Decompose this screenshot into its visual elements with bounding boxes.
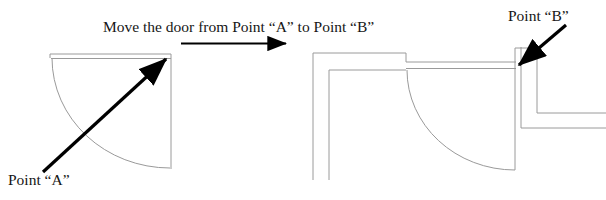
point-b-label: Point “B” (508, 8, 569, 24)
right-l-wall-inner (537, 46, 606, 113)
right-door-swing-arc (407, 70, 515, 170)
left-door-swing-arc (52, 58, 170, 168)
point-b-arrow (519, 25, 566, 65)
right-l-wall-outer (521, 120, 606, 128)
right-panel-group (313, 25, 606, 180)
figure-title: Move the door from Point “A” to Point “B… (103, 19, 374, 35)
door-relocation-figure: Move the door from Point “A” to Point “B… (0, 0, 606, 200)
left-panel-group (43, 54, 171, 172)
right-inner-wall (329, 70, 406, 180)
point-a-label: Point “A” (8, 172, 70, 188)
right-outer-wall (313, 53, 406, 180)
point-a-arrow (43, 59, 166, 172)
